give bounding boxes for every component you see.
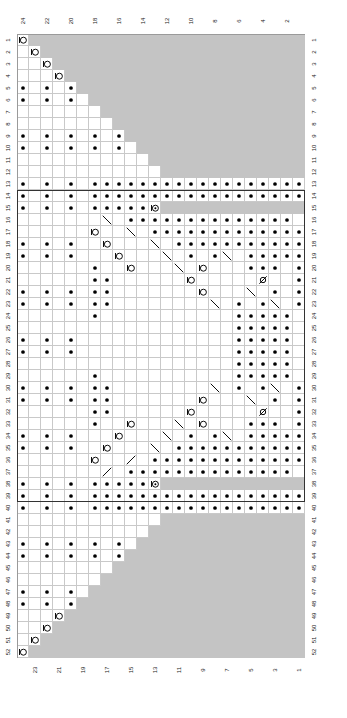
chart-cell-knit[interactable]: [29, 202, 41, 214]
chart-cell-knit[interactable]: [77, 202, 89, 214]
chart-cell[interactable]: [245, 418, 257, 430]
chart-cell[interactable]: [41, 58, 53, 70]
chart-cell-knit[interactable]: [137, 310, 149, 322]
chart-cell[interactable]: [101, 394, 113, 406]
chart-cell[interactable]: [257, 454, 269, 466]
chart-cell[interactable]: [17, 130, 29, 142]
chart-cell-knit[interactable]: [173, 322, 185, 334]
chart-cell-knit[interactable]: [77, 574, 89, 586]
chart-cell-knit[interactable]: [53, 550, 65, 562]
chart-cell[interactable]: [245, 322, 257, 334]
chart-cell-knit[interactable]: [233, 418, 245, 430]
chart-cell-knit[interactable]: [113, 454, 125, 466]
chart-cell[interactable]: [233, 214, 245, 226]
chart-cell-knit[interactable]: [161, 358, 173, 370]
chart-cell-knit[interactable]: [53, 370, 65, 382]
chart-cell-knit[interactable]: [173, 382, 185, 394]
chart-cell[interactable]: [41, 286, 53, 298]
chart-cell-knit[interactable]: [101, 322, 113, 334]
chart-cell[interactable]: [173, 490, 185, 502]
chart-cell-knit[interactable]: [293, 466, 305, 478]
chart-cell-knit[interactable]: [173, 406, 185, 418]
chart-cell[interactable]: [17, 538, 29, 550]
chart-cell-knit[interactable]: [125, 322, 137, 334]
chart-cell[interactable]: [41, 394, 53, 406]
chart-cell-knit[interactable]: [149, 346, 161, 358]
chart-cell-knit[interactable]: [29, 538, 41, 550]
chart-cell-knit[interactable]: [53, 286, 65, 298]
chart-cell-knit[interactable]: [41, 154, 53, 166]
chart-cell-knit[interactable]: [29, 214, 41, 226]
chart-cell-knit[interactable]: [17, 58, 29, 70]
chart-cell[interactable]: [209, 238, 221, 250]
chart-cell-knit[interactable]: [185, 334, 197, 346]
chart-cell[interactable]: [209, 250, 221, 262]
chart-cell[interactable]: [125, 226, 137, 238]
chart-cell-knit[interactable]: [65, 322, 77, 334]
chart-cell[interactable]: [197, 442, 209, 454]
chart-cell[interactable]: [125, 478, 137, 490]
chart-cell[interactable]: [41, 334, 53, 346]
chart-cell-knit[interactable]: [113, 442, 125, 454]
chart-cell-knit[interactable]: [29, 346, 41, 358]
chart-cell-knit[interactable]: [53, 238, 65, 250]
chart-cell-knit[interactable]: [17, 406, 29, 418]
chart-cell[interactable]: [245, 226, 257, 238]
chart-cell[interactable]: [185, 454, 197, 466]
chart-cell-knit[interactable]: [89, 358, 101, 370]
chart-cell-knit[interactable]: [197, 382, 209, 394]
chart-cell-knit[interactable]: [53, 394, 65, 406]
chart-cell-knit[interactable]: [125, 442, 137, 454]
chart-cell-knit[interactable]: [113, 382, 125, 394]
chart-cell-knit[interactable]: [77, 178, 89, 190]
chart-cell[interactable]: [221, 466, 233, 478]
chart-cell[interactable]: [17, 142, 29, 154]
chart-cell[interactable]: [89, 274, 101, 286]
chart-cell-knit[interactable]: [29, 478, 41, 490]
chart-cell[interactable]: [41, 346, 53, 358]
chart-cell[interactable]: [293, 430, 305, 442]
chart-cell[interactable]: [257, 334, 269, 346]
chart-cell-knit[interactable]: [125, 298, 137, 310]
chart-cell[interactable]: [185, 430, 197, 442]
chart-cell[interactable]: [17, 550, 29, 562]
chart-cell[interactable]: [185, 406, 197, 418]
chart-cell[interactable]: [233, 442, 245, 454]
chart-cell-knit[interactable]: [113, 214, 125, 226]
chart-cell-knit[interactable]: [137, 454, 149, 466]
chart-cell[interactable]: [233, 370, 245, 382]
chart-cell-knit[interactable]: [137, 286, 149, 298]
chart-cell[interactable]: [149, 442, 161, 454]
chart-cell-knit[interactable]: [209, 334, 221, 346]
chart-cell[interactable]: [197, 394, 209, 406]
chart-cell[interactable]: [41, 250, 53, 262]
chart-cell-knit[interactable]: [89, 574, 101, 586]
chart-cell-knit[interactable]: [233, 274, 245, 286]
chart-cell-knit[interactable]: [53, 490, 65, 502]
chart-cell-knit[interactable]: [173, 334, 185, 346]
chart-cell[interactable]: [185, 226, 197, 238]
chart-cell[interactable]: [17, 346, 29, 358]
chart-cell[interactable]: [41, 538, 53, 550]
chart-cell[interactable]: [221, 442, 233, 454]
chart-cell[interactable]: [149, 178, 161, 190]
chart-cell[interactable]: [233, 322, 245, 334]
chart-cell-knit[interactable]: [161, 322, 173, 334]
chart-grid[interactable]: [17, 34, 305, 658]
chart-cell[interactable]: [173, 442, 185, 454]
chart-cell-knit[interactable]: [41, 358, 53, 370]
chart-cell[interactable]: [257, 418, 269, 430]
chart-cell[interactable]: [149, 202, 161, 214]
chart-cell-knit[interactable]: [149, 514, 161, 526]
chart-cell-knit[interactable]: [101, 154, 113, 166]
chart-cell[interactable]: [89, 286, 101, 298]
chart-cell-knit[interactable]: [197, 358, 209, 370]
chart-cell-knit[interactable]: [77, 490, 89, 502]
chart-cell-knit[interactable]: [137, 334, 149, 346]
chart-cell[interactable]: [65, 142, 77, 154]
chart-cell[interactable]: [269, 358, 281, 370]
chart-cell-knit[interactable]: [29, 550, 41, 562]
chart-cell-knit[interactable]: [101, 418, 113, 430]
chart-cell[interactable]: [137, 178, 149, 190]
chart-cell-knit[interactable]: [65, 118, 77, 130]
